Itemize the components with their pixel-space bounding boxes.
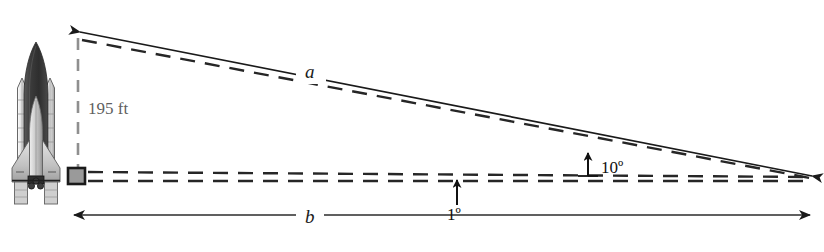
dashed-horizontal-reference bbox=[88, 172, 812, 177]
dashed-sight-line-upper bbox=[82, 40, 810, 178]
diagram-lines-layer bbox=[0, 0, 824, 252]
side-a-label: a bbox=[305, 62, 315, 81]
line-a-hypotenuse bbox=[80, 32, 812, 176]
shuttle-angle-diagram: 195 ft a b 10º 1º bbox=[0, 0, 824, 252]
height-label: 195 ft bbox=[88, 100, 128, 117]
right-angle-marker-icon bbox=[68, 168, 85, 184]
side-b-label: b bbox=[305, 207, 315, 226]
angle-depression-label: 1º bbox=[447, 206, 461, 223]
angle-elevation-label: 10º bbox=[601, 159, 623, 176]
